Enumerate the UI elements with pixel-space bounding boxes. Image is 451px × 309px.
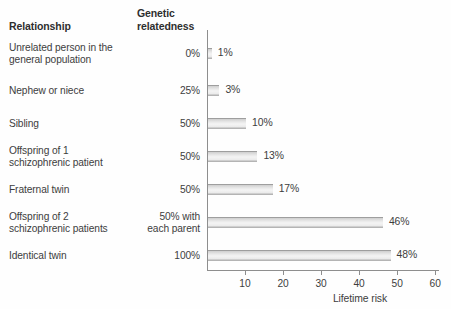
row-label: Offspring of 2 schizophrenic patients	[9, 211, 139, 236]
bar	[208, 217, 383, 228]
row-label: Sibling	[9, 118, 139, 130]
row-label: Unrelated person in the general populati…	[9, 42, 139, 67]
genetic-relatedness-value: 50%	[128, 118, 200, 130]
bar-value-label: 46%	[389, 216, 410, 227]
bar-chart: Relationship Genetic relatedness Unrelat…	[0, 0, 451, 309]
x-axis-tick-label: 20	[270, 278, 296, 289]
bar	[208, 184, 273, 195]
bar-value-label: 17%	[279, 183, 300, 194]
bar-value-label: 10%	[252, 117, 273, 128]
bar	[208, 250, 391, 261]
x-axis-tick	[359, 270, 360, 275]
x-axis-line	[207, 270, 439, 271]
bar	[208, 151, 257, 162]
genetic-relatedness-value: 25%	[128, 85, 200, 97]
row-label: Identical twin	[9, 250, 139, 262]
bar-value-label: 1%	[218, 47, 233, 58]
genetic-relatedness-value: 50% with each parent	[128, 211, 200, 236]
x-axis-tick	[321, 270, 322, 275]
column-header-relationship: Relationship	[9, 20, 71, 33]
plot-area: 1%3%10%13%17%46%48% 102030405060 Lifetim…	[207, 30, 439, 270]
x-axis-tick-label: 40	[346, 278, 372, 289]
x-axis-tick	[435, 270, 436, 275]
x-axis-title: Lifetime risk	[300, 293, 420, 304]
bar-value-label: 13%	[263, 150, 284, 161]
row-label: Fraternal twin	[9, 184, 139, 196]
x-axis-tick-label: 30	[308, 278, 334, 289]
column-header-genetic-relatedness: Genetic relatedness	[137, 7, 217, 32]
x-axis-tick	[283, 270, 284, 275]
bar-value-label: 48%	[397, 249, 418, 260]
x-axis-tick-label: 10	[232, 278, 258, 289]
genetic-relatedness-value: 50%	[128, 184, 200, 196]
x-axis-tick	[245, 270, 246, 275]
bar-value-label: 3%	[225, 84, 240, 95]
bar	[208, 85, 219, 96]
x-axis-tick-label: 50	[384, 278, 410, 289]
genetic-relatedness-value: 100%	[128, 250, 200, 262]
row-label: Nephew or niece	[9, 85, 139, 97]
genetic-relatedness-value: 50%	[128, 151, 200, 163]
bar	[208, 118, 246, 129]
row-label: Offspring of 1 schizophrenic patient	[9, 145, 139, 170]
x-axis-tick-label: 60	[422, 278, 448, 289]
genetic-relatedness-value: 0%	[128, 48, 200, 60]
y-axis-line	[207, 30, 208, 270]
bar	[208, 48, 212, 59]
x-axis-tick	[397, 270, 398, 275]
